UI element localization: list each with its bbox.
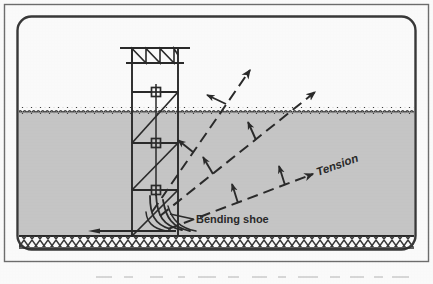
sheave-upper <box>152 88 161 97</box>
seabed <box>19 236 414 248</box>
bending-shoe-label: Bending shoe <box>196 213 269 225</box>
figure-page: Tension Bending shoe <box>0 0 433 284</box>
pipelay-diagram: Tension Bending shoe <box>0 0 433 284</box>
sheave-middle <box>152 139 161 148</box>
seabed-hatch <box>19 236 414 247</box>
